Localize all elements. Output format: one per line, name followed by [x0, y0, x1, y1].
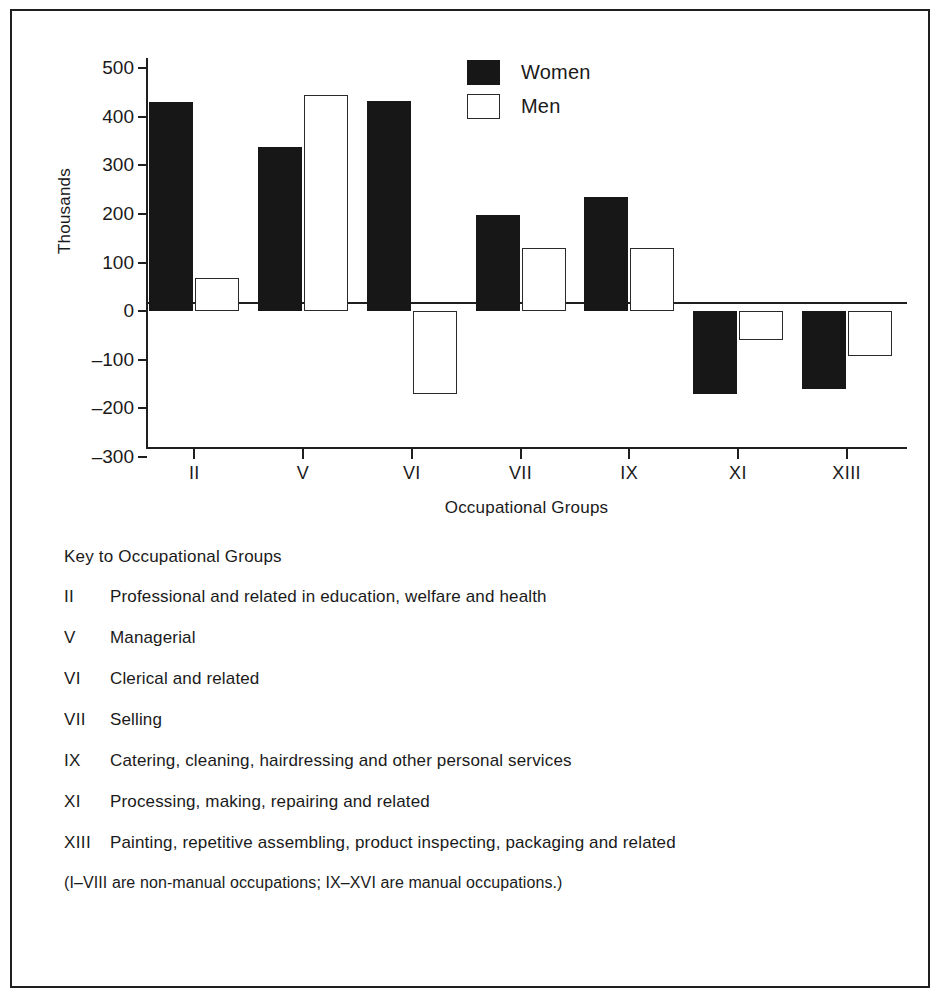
x-tick-mark — [628, 448, 630, 459]
x-tick-label-VII: VII — [481, 463, 561, 484]
y-tick-label: –200 — [64, 398, 134, 417]
key-row: VIISelling — [64, 710, 914, 730]
y-tick-label-holder: –300 — [56, 447, 134, 466]
key-row: XIIIPainting, repetitive assembling, pro… — [64, 833, 914, 853]
x-axis-title: Occupational Groups — [146, 498, 907, 518]
key-row: IXCatering, cleaning, hairdressing and o… — [64, 751, 914, 771]
key-row-description: Painting, repetitive assembling, product… — [110, 833, 676, 853]
bar-VI-men — [413, 311, 457, 394]
y-tick-label: 0 — [64, 301, 134, 320]
y-tick-label-holder: –200 — [56, 398, 134, 417]
y-tick-label: 300 — [64, 155, 134, 174]
y-tick-mark — [138, 67, 147, 69]
key-title: Key to Occupational Groups — [64, 547, 914, 567]
y-tick-mark — [138, 407, 147, 409]
bar-VII-women — [476, 215, 520, 311]
figure-frame: Thousands 5004003002001000–100–200–300 I… — [10, 9, 930, 988]
legend-swatch-women-icon — [467, 60, 500, 85]
y-tick-label-holder: 200 — [56, 204, 134, 223]
key-row-description: Selling — [110, 710, 162, 730]
bar-IX-women — [584, 197, 628, 311]
y-tick-mark — [138, 310, 147, 312]
key-note: (I–VIII are non-manual occupations; IX–X… — [64, 874, 914, 892]
x-tick-mark — [302, 448, 304, 459]
key-row-code: II — [64, 587, 110, 607]
chart-legend: Women Men — [467, 55, 697, 123]
y-tick-label-holder: 0 — [56, 301, 134, 320]
bar-IX-men — [630, 248, 674, 311]
bar-V-men — [304, 95, 348, 311]
key-row: XIProcessing, making, repairing and rela… — [64, 792, 914, 812]
plot-area: Thousands 5004003002001000–100–200–300 I… — [12, 11, 932, 461]
x-tick-label-II: II — [154, 463, 234, 484]
bar-XI-women — [693, 311, 737, 394]
x-tick-mark — [520, 448, 522, 459]
y-tick-label: 400 — [64, 107, 134, 126]
key-row-code: V — [64, 628, 110, 648]
y-tick-mark — [138, 116, 147, 118]
bar-XIII-women — [802, 311, 846, 389]
y-tick-mark — [138, 456, 147, 458]
bar-V-women — [258, 147, 302, 311]
legend-item-women: Women — [467, 55, 697, 89]
key-row-code: XI — [64, 792, 110, 812]
x-axis-line — [146, 447, 907, 449]
bar-chart: Thousands 5004003002001000–100–200–300 I… — [12, 11, 932, 521]
key-rows: IIProfessional and related in education,… — [64, 587, 914, 853]
x-tick-label-XI: XI — [698, 463, 778, 484]
x-tick-label-XIII: XIII — [807, 463, 887, 484]
key-row: VIClerical and related — [64, 669, 914, 689]
y-tick-label: –300 — [64, 447, 134, 466]
key-row-description: Catering, cleaning, hairdressing and oth… — [110, 751, 572, 771]
key-row-description: Clerical and related — [110, 669, 259, 689]
key-row: VManagerial — [64, 628, 914, 648]
key-row-code: VI — [64, 669, 110, 689]
bar-XI-men — [739, 311, 783, 340]
y-tick-label: –100 — [64, 350, 134, 369]
legend-item-men: Men — [467, 89, 697, 123]
x-tick-mark — [737, 448, 739, 459]
key-row-code: IX — [64, 751, 110, 771]
legend-swatch-men-icon — [467, 94, 500, 119]
bar-II-men — [195, 278, 239, 311]
y-tick-label: 100 — [64, 253, 134, 272]
y-tick-label-holder: 300 — [56, 155, 134, 174]
y-tick-label-holder: 500 — [56, 58, 134, 77]
legend-label-men: Men — [521, 95, 561, 118]
key-row-description: Professional and related in education, w… — [110, 587, 547, 607]
bar-XIII-men — [848, 311, 892, 356]
bar-II-women — [149, 102, 193, 311]
x-tick-label-V: V — [263, 463, 343, 484]
x-tick-mark — [193, 448, 195, 459]
y-tick-label-holder: 400 — [56, 107, 134, 126]
key-row-description: Processing, making, repairing and relate… — [110, 792, 430, 812]
bar-VII-men — [522, 248, 566, 311]
legend-label-women: Women — [521, 61, 591, 84]
bar-VI-women — [367, 101, 411, 311]
y-tick-label-holder: –100 — [56, 350, 134, 369]
key-row-code: VII — [64, 710, 110, 730]
y-tick-label: 200 — [64, 204, 134, 223]
key-section: Key to Occupational Groups IIProfessiona… — [64, 547, 914, 892]
x-tick-mark — [411, 448, 413, 459]
y-tick-mark — [138, 359, 147, 361]
x-tick-label-IX: IX — [589, 463, 669, 484]
key-row-code: XIII — [64, 833, 110, 853]
x-tick-label-VI: VI — [372, 463, 452, 484]
key-row-description: Managerial — [110, 628, 196, 648]
key-row: IIProfessional and related in education,… — [64, 587, 914, 607]
x-tick-mark — [846, 448, 848, 459]
y-tick-label: 500 — [64, 58, 134, 77]
y-tick-label-holder: 100 — [56, 253, 134, 272]
y-tick-mark — [138, 164, 147, 166]
y-tick-mark — [138, 213, 147, 215]
y-tick-mark — [138, 262, 147, 264]
